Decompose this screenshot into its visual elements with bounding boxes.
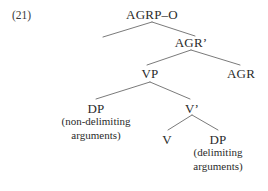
- tree-edge-vp-to-v-bar: [150, 82, 190, 99]
- tree-node-dp-subject: DP: [87, 102, 104, 116]
- tree-edge-agr-bar-to-agr: [191, 50, 240, 65]
- annotation-line: arguments): [61, 129, 130, 143]
- tree-node-v-bar: V’: [185, 102, 199, 116]
- tree-node-agrp-o: AGRP–O: [126, 8, 178, 22]
- tree-node-dp-object: DP: [209, 133, 226, 147]
- tree-edge-v-bar-to-dp-object: [192, 115, 218, 130]
- tree-diagram-figure: (21) AGRP–O AGR’ VP AGR DP V’ V DP (non-…: [0, 0, 268, 191]
- annotation-delimiting-arguments: (delimiting arguments): [193, 146, 242, 173]
- tree-edge-agrp-o-to-agr-bar: [152, 22, 195, 36]
- annotation-non-delimiting-arguments: (non-delimiting arguments): [61, 115, 130, 142]
- annotation-line: (delimiting: [193, 146, 242, 160]
- tree-edge-vp-to-dp-subject: [96, 82, 150, 99]
- tree-node-v: V: [162, 133, 172, 147]
- tree-edge-agrp-o-to-left-specifier: [103, 22, 152, 37]
- tree-edge-v-bar-to-v: [168, 115, 192, 130]
- tree-edge-agr-bar-to-vp: [147, 50, 191, 65]
- tree-node-agr-bar: AGR’: [175, 36, 208, 50]
- tree-node-agr: AGR: [227, 67, 255, 81]
- annotation-line: (non-delimiting: [61, 115, 130, 129]
- annotation-line: arguments): [193, 160, 242, 174]
- tree-node-vp: VP: [141, 67, 158, 81]
